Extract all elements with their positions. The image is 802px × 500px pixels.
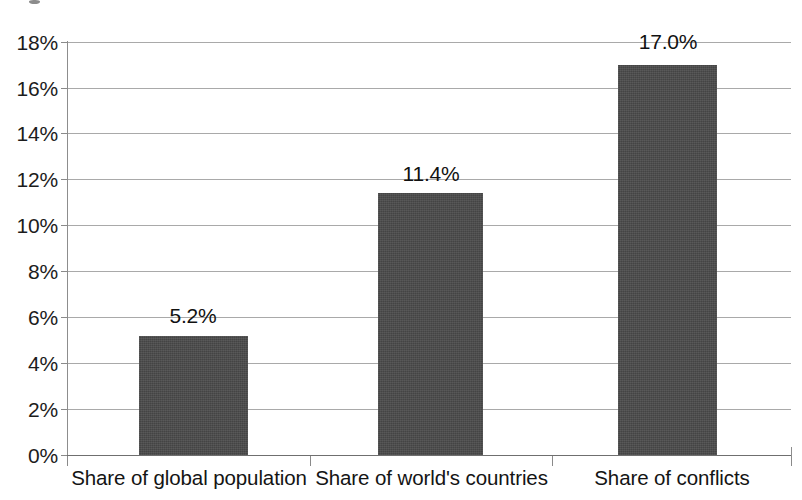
plot-area [67, 42, 791, 455]
x-axis-right-end [791, 447, 792, 456]
x-axis-category-label-2: Share of world's countries [310, 466, 553, 490]
y-axis-tick-label-12: 12% [0, 169, 58, 190]
y-axis-tick-label-8: 8% [0, 261, 58, 282]
cropped-title-artifact [29, 0, 40, 4]
y-axis-tick-label-6: 6% [0, 307, 58, 328]
bar-share-of-global-population [139, 336, 248, 455]
y-axis-line [67, 41, 68, 456]
x-axis-tick-mark [310, 456, 311, 466]
y-axis-tick-label-2: 2% [0, 399, 58, 420]
bar-share-of-conflicts [618, 65, 717, 455]
bar-value-label-3: 17.0% [603, 31, 733, 52]
y-axis-tick-label-14: 14% [0, 123, 58, 144]
bar-value-label-1: 5.2% [129, 305, 257, 326]
y-axis-tick-label-0: 0% [0, 445, 58, 466]
bar-chart: 18% 16% 14% 12% 10% 8% 6% 4% 2% 0% 5.2% … [0, 0, 802, 500]
bar-share-of-worlds-countries [378, 193, 483, 455]
x-axis-line [67, 455, 792, 456]
x-axis-tick-mark [552, 456, 553, 466]
x-axis-category-label-1: Share of global population [60, 466, 318, 490]
bar-value-label-2: 11.4% [366, 163, 496, 184]
x-axis-tick-mark [67, 456, 68, 466]
y-axis-tick-label-10: 10% [0, 215, 58, 236]
y-axis-tick-label-4: 4% [0, 353, 58, 374]
x-axis-tick-mark [791, 456, 792, 466]
y-axis-tick-label-16: 16% [0, 78, 58, 99]
y-axis-tick-label-18: 18% [0, 32, 58, 53]
x-axis-category-label-3: Share of conflicts [552, 466, 792, 490]
